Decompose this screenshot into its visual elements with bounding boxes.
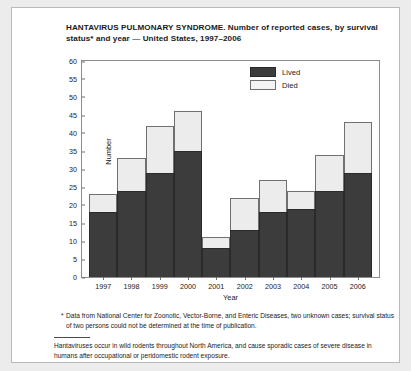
y-axis-tick: 20	[69, 200, 82, 209]
bar-series-group	[89, 61, 372, 277]
figure-page: HANTAVIRUS PULMONARY SYNDROME. Number of…	[0, 0, 411, 371]
x-axis-tickmark	[188, 277, 189, 280]
y-axis-tick: 55	[69, 74, 82, 83]
bar-segment-lived[interactable]	[174, 151, 202, 277]
x-axis-tickmark	[301, 277, 302, 280]
bar-segment-lived[interactable]	[315, 191, 343, 277]
chart-plot-area	[82, 61, 379, 277]
legend-label-lived: Lived	[282, 68, 300, 77]
x-axis-label: Year	[82, 293, 379, 302]
y-axis-tick: 40	[69, 128, 82, 137]
y-axis-tick: 60	[69, 57, 82, 66]
bar-segment-died[interactable]	[230, 198, 258, 230]
x-axis-tickmark	[131, 277, 132, 280]
bar-group[interactable]	[89, 61, 117, 277]
x-axis-tickmark	[216, 277, 217, 280]
bar-segment-lived[interactable]	[287, 209, 315, 277]
legend-item-died: Died	[250, 80, 300, 90]
note-divider	[54, 337, 90, 338]
bar-segment-lived[interactable]	[230, 230, 258, 277]
bar-group[interactable]	[287, 61, 315, 277]
bar-segment-died[interactable]	[89, 194, 117, 212]
y-axis-tick: 0	[73, 273, 82, 282]
legend-swatch-lived	[250, 67, 276, 77]
x-axis-tickmark	[103, 277, 104, 280]
bar-group[interactable]	[315, 61, 343, 277]
bar-group[interactable]	[230, 61, 258, 277]
bar-segment-lived[interactable]	[146, 173, 174, 277]
y-axis-tick: 45	[69, 111, 82, 120]
figure-note-box: Hantaviruses occur in wild rodents throu…	[54, 337, 396, 361]
bar-segment-lived[interactable]	[259, 212, 287, 277]
bar-segment-died[interactable]	[315, 155, 343, 191]
x-axis-tickmark	[245, 277, 246, 280]
footnote-text: Data from National Center for Zoonotic, …	[66, 312, 394, 329]
y-axis-tick: 25	[69, 183, 82, 192]
y-axis-tick: 5	[73, 255, 82, 264]
bar-segment-lived[interactable]	[202, 248, 230, 277]
bar-segment-lived[interactable]	[344, 173, 372, 277]
bar-group[interactable]	[117, 61, 145, 277]
y-axis-tick: 10	[69, 237, 82, 246]
y-axis-tick: 35	[69, 147, 82, 156]
bar-segment-died[interactable]	[146, 126, 174, 173]
x-axis-tickmark	[273, 277, 274, 280]
bar-segment-died[interactable]	[344, 122, 372, 172]
figure-title: HANTAVIRUS PULMONARY SYNDROME. Number of…	[66, 22, 391, 45]
footnote-marker: *	[61, 311, 64, 321]
legend-swatch-died	[250, 80, 276, 90]
bar-group[interactable]	[344, 61, 372, 277]
bar-group[interactable]	[146, 61, 174, 277]
bar-segment-died[interactable]	[202, 237, 230, 248]
bar-segment-died[interactable]	[259, 180, 287, 212]
bar-segment-lived[interactable]	[117, 191, 145, 277]
figure-card: HANTAVIRUS PULMONARY SYNDROME. Number of…	[11, 7, 400, 363]
y-axis-tick: 30	[69, 165, 82, 174]
bar-segment-died[interactable]	[287, 191, 315, 209]
note-text: Hantaviruses occur in wild rodents throu…	[54, 341, 396, 361]
bar-segment-died[interactable]	[117, 158, 145, 190]
legend-label-died: Died	[282, 81, 298, 90]
bar-segment-lived[interactable]	[89, 212, 117, 277]
bar-group[interactable]	[259, 61, 287, 277]
x-axis-tickmark	[358, 277, 359, 280]
x-axis-tickmark	[160, 277, 161, 280]
chart-plot-frame: Number 051015202530354045505560 19971998…	[81, 60, 380, 278]
legend-item-lived: Lived	[250, 67, 300, 77]
bar-group[interactable]	[202, 61, 230, 277]
bar-segment-died[interactable]	[174, 111, 202, 151]
y-axis-tick: 50	[69, 92, 82, 101]
bar-group[interactable]	[174, 61, 202, 277]
y-axis-tick: 15	[69, 219, 82, 228]
figure-footnote: * Data from National Center for Zoonotic…	[66, 311, 396, 331]
x-axis-tickmark	[330, 277, 331, 280]
chart-legend: Lived Died	[250, 67, 300, 93]
